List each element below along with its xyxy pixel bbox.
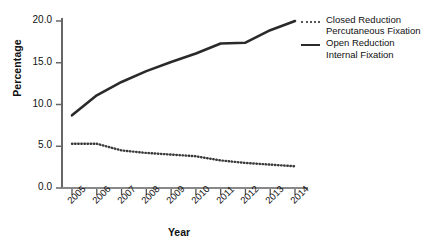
y-axis-title: Percentage (11, 23, 23, 113)
dotted-line-key-icon (300, 14, 322, 28)
chart-legend: Closed Reduction Percutaneous Fixation O… (300, 14, 421, 61)
y-tick-label: 0.0 (18, 181, 52, 192)
legend-label-crpf: Closed Reduction Percutaneous Fixation (326, 14, 421, 36)
series-line-crpf (72, 144, 295, 167)
y-tick-label: 15.0 (18, 56, 52, 67)
legend-item-orif: Open Reduction Internal Fixation (300, 37, 421, 59)
x-axis-title: Year (62, 226, 296, 238)
legend-label-orif-line1: Open Reduction (326, 37, 395, 48)
y-tick-label: 20.0 (18, 14, 52, 25)
legend-label-orif-line2: Internal Fixation (326, 49, 395, 60)
solid-line-key-icon (300, 37, 322, 51)
legend-label-crpf-line2: Percutaneous Fixation (326, 25, 421, 36)
series-line-orif (72, 21, 295, 115)
y-tick-label: 10.0 (18, 98, 52, 109)
legend-label-crpf-line1: Closed Reduction (326, 14, 421, 25)
y-tick-label: 5.0 (18, 139, 52, 150)
legend-item-crpf: Closed Reduction Percutaneous Fixation (300, 14, 421, 36)
chart-figure: 0.05.010.015.020.0 200520062007200820092… (0, 0, 421, 243)
legend-label-orif: Open Reduction Internal Fixation (326, 37, 395, 59)
